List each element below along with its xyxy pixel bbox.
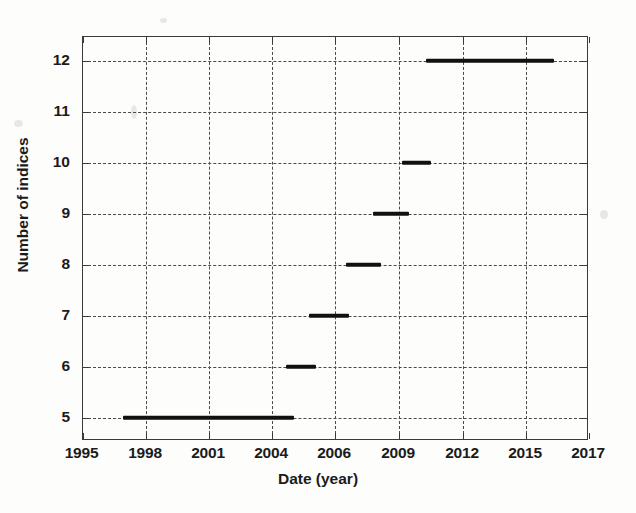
y-axis-tick bbox=[83, 112, 89, 113]
y-axis-tick bbox=[581, 265, 587, 266]
x-axis-tick-label: 2017 bbox=[571, 444, 605, 462]
y-axis-tick bbox=[581, 61, 587, 62]
y-axis-title: Number of indices bbox=[14, 90, 32, 320]
y-axis-tick bbox=[83, 316, 89, 317]
y-axis-tick bbox=[581, 418, 587, 419]
x-axis-tick-label: 2012 bbox=[445, 444, 479, 462]
gridline-horizontal bbox=[83, 265, 588, 266]
data-segment bbox=[286, 364, 316, 369]
plot-area bbox=[82, 36, 589, 440]
x-axis-tick-label: 1995 bbox=[65, 444, 99, 462]
y-axis-tick bbox=[581, 214, 587, 215]
y-axis-tick-label: 11 bbox=[0, 102, 70, 120]
data-segment bbox=[346, 262, 381, 267]
x-axis-tick-label: 2004 bbox=[254, 444, 288, 462]
scan-speck bbox=[160, 18, 167, 23]
x-axis-tick bbox=[146, 433, 147, 439]
gridline-vertical bbox=[399, 37, 400, 439]
x-axis-tick bbox=[526, 37, 527, 43]
data-segment bbox=[426, 58, 554, 63]
gridline-vertical bbox=[526, 37, 527, 439]
x-axis-tick bbox=[526, 433, 527, 439]
x-axis-tick bbox=[83, 433, 84, 439]
x-axis-tick-label: 2015 bbox=[508, 444, 542, 462]
y-axis-tick bbox=[83, 265, 89, 266]
y-axis-tick bbox=[581, 112, 587, 113]
x-axis-tick bbox=[399, 433, 400, 439]
y-axis-tick bbox=[581, 163, 587, 164]
gridline-vertical bbox=[209, 37, 210, 439]
scan-speck bbox=[600, 210, 608, 219]
x-axis-tick bbox=[146, 37, 147, 43]
y-axis-tick bbox=[83, 214, 89, 215]
x-axis-tick-label: 2001 bbox=[191, 444, 225, 462]
data-segment bbox=[309, 313, 349, 318]
data-segment bbox=[402, 160, 431, 165]
y-axis-tick-label: 7 bbox=[0, 306, 70, 324]
x-axis-tick bbox=[463, 37, 464, 43]
y-axis-tick bbox=[83, 163, 89, 164]
data-segment bbox=[123, 415, 294, 420]
x-axis-title: Date (year) bbox=[0, 470, 636, 488]
gridline-horizontal bbox=[83, 367, 588, 368]
chart-figure: 199519982001200420062009201220152017 121… bbox=[0, 0, 636, 513]
gridline-vertical bbox=[335, 37, 336, 439]
x-axis-tick bbox=[589, 37, 590, 43]
y-axis-tick-label: 5 bbox=[0, 408, 70, 426]
gridline-horizontal bbox=[83, 163, 588, 164]
x-axis-tick-label: 2009 bbox=[381, 444, 415, 462]
y-axis-tick bbox=[83, 61, 89, 62]
x-axis-tick bbox=[272, 37, 273, 43]
gridline-vertical bbox=[463, 37, 464, 439]
x-axis-tick bbox=[209, 37, 210, 43]
y-axis-tick-label: 9 bbox=[0, 204, 70, 222]
x-axis-tick-label: 2006 bbox=[317, 444, 351, 462]
y-axis-tick-label: 6 bbox=[0, 357, 70, 375]
y-axis-tick bbox=[83, 418, 89, 419]
x-axis-tick bbox=[335, 433, 336, 439]
x-axis-tick bbox=[335, 37, 336, 43]
gridline-horizontal bbox=[83, 214, 588, 215]
x-axis-tick bbox=[463, 433, 464, 439]
data-segment bbox=[373, 211, 409, 216]
y-axis-tick-label: 12 bbox=[0, 51, 70, 69]
y-axis-tick-label: 10 bbox=[0, 153, 70, 171]
x-axis-tick bbox=[272, 433, 273, 439]
y-axis-tick bbox=[581, 367, 587, 368]
y-axis-tick bbox=[83, 367, 89, 368]
gridline-horizontal bbox=[83, 112, 588, 113]
x-axis-tick bbox=[589, 433, 590, 439]
gridline-vertical bbox=[146, 37, 147, 439]
x-axis-tick-label: 1998 bbox=[128, 444, 162, 462]
x-axis-tick bbox=[209, 433, 210, 439]
gridline-vertical bbox=[272, 37, 273, 439]
y-axis-tick-label: 8 bbox=[0, 255, 70, 273]
x-axis-tick bbox=[83, 37, 84, 43]
y-axis-tick bbox=[581, 316, 587, 317]
x-axis-tick bbox=[399, 37, 400, 43]
